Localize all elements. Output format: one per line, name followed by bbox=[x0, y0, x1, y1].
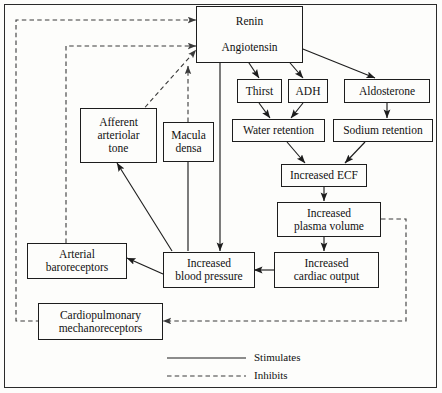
node-label-bp-line1: Increased bbox=[166, 257, 252, 270]
legend-label-stimulates: Stimulates bbox=[254, 351, 300, 363]
node-label-plasma-line2: plasma volume bbox=[280, 220, 378, 233]
node-label-cardiac-line2: cardiac output bbox=[277, 270, 376, 283]
diagram-canvas: Renin Angiotensin Thirst ADH Aldosterone… bbox=[0, 0, 442, 393]
legend-label-inhibits: Inhibits bbox=[254, 369, 288, 381]
node-label-macula-line1: Macula bbox=[166, 129, 211, 142]
node-label-afferent-line2: arteriolar bbox=[83, 129, 154, 142]
node-increased-plasma-volume[interactable]: Increased plasma volume bbox=[277, 202, 381, 237]
node-increased-ecf[interactable]: Increased ECF bbox=[281, 164, 367, 187]
node-water-retention[interactable]: Water retention bbox=[232, 119, 325, 142]
node-increased-cardiac-output[interactable]: Increased cardiac output bbox=[274, 252, 379, 288]
node-label-increased-ecf: Increased ECF bbox=[284, 169, 364, 182]
node-label-bp-line2: blood pressure bbox=[166, 270, 252, 283]
node-label-cardiopulm-line1: Cardiopulmonary bbox=[41, 309, 160, 322]
node-thirst[interactable]: Thirst bbox=[237, 79, 282, 103]
node-increased-blood-pressure[interactable]: Increased blood pressure bbox=[163, 252, 255, 288]
node-macula-densa[interactable]: Macula densa bbox=[163, 122, 214, 162]
node-cardiopulmonary-mechanoreceptors[interactable]: Cardiopulmonary mechanoreceptors bbox=[38, 303, 163, 340]
node-label-baro-line2: baroreceptors bbox=[30, 261, 124, 274]
node-label-water-retention: Water retention bbox=[235, 124, 322, 137]
node-label-sodium-retention: Sodium retention bbox=[336, 124, 430, 137]
node-label-angiotensin: Angiotensin bbox=[199, 41, 300, 54]
node-adh[interactable]: ADH bbox=[288, 79, 328, 103]
node-label-afferent-line3: tone bbox=[83, 142, 154, 155]
node-label-aldosterone: Aldosterone bbox=[347, 85, 427, 98]
node-label-renin: Renin bbox=[199, 15, 300, 28]
node-label-cardiopulm-line2: mechanoreceptors bbox=[41, 322, 160, 335]
node-label-macula-line2: densa bbox=[166, 142, 211, 155]
node-label-adh: ADH bbox=[291, 85, 325, 98]
node-label-cardiac-line1: Increased bbox=[277, 257, 376, 270]
node-afferent-arteriolar-tone[interactable]: Afferent arteriolar tone bbox=[80, 108, 157, 163]
node-aldosterone[interactable]: Aldosterone bbox=[344, 79, 430, 103]
node-label-plasma-line1: Increased bbox=[280, 207, 378, 220]
node-label-afferent-line1: Afferent bbox=[83, 116, 154, 129]
node-label-baro-line1: Arterial bbox=[30, 248, 124, 261]
node-arterial-baroreceptors[interactable]: Arterial baroreceptors bbox=[27, 243, 127, 279]
node-renin-angiotensin[interactable]: Renin Angiotensin bbox=[196, 6, 303, 63]
node-sodium-retention[interactable]: Sodium retention bbox=[333, 119, 433, 142]
node-label-thirst: Thirst bbox=[240, 85, 279, 98]
